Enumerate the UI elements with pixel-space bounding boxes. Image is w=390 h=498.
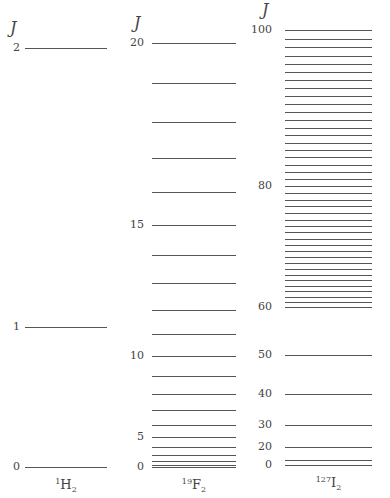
energy-level-line xyxy=(285,96,372,97)
energy-level-line xyxy=(152,467,236,468)
j-tick-label: 20 xyxy=(248,440,272,453)
energy-level-line xyxy=(285,72,372,73)
energy-level-line xyxy=(285,291,372,292)
energy-level-line xyxy=(285,193,372,194)
energy-level-line xyxy=(285,245,372,246)
j-axis-label: J xyxy=(134,13,140,32)
energy-level-line xyxy=(285,226,372,227)
energy-level-line xyxy=(152,192,236,193)
energy-level-line xyxy=(152,225,236,226)
molecule-label: 1H2 xyxy=(16,477,116,494)
energy-level-line xyxy=(285,80,372,81)
j-tick-label: 10 xyxy=(120,349,144,362)
energy-level-line xyxy=(152,465,236,466)
energy-level-line xyxy=(285,263,372,264)
energy-level-line xyxy=(152,455,236,456)
energy-level-line xyxy=(152,425,236,426)
j-tick-label: 5 xyxy=(120,430,144,443)
energy-level-line xyxy=(285,120,372,121)
energy-level-line xyxy=(285,307,372,308)
j-axis-label: J xyxy=(262,0,268,19)
energy-level-line xyxy=(152,334,236,335)
j-tick-label: 1 xyxy=(0,320,20,333)
molecule-label: 19F2 xyxy=(144,477,244,494)
energy-level-line xyxy=(285,447,372,448)
j-tick-label: 50 xyxy=(248,348,272,361)
j-tick-label: 20 xyxy=(120,36,144,49)
energy-level-line xyxy=(285,165,372,166)
j-tick-label: 0 xyxy=(248,458,272,471)
energy-level-line xyxy=(152,310,236,311)
j-tick-label: 60 xyxy=(248,300,272,313)
j-tick-label: 80 xyxy=(248,179,272,192)
energy-level-line xyxy=(285,143,372,144)
energy-level-line xyxy=(285,157,372,158)
energy-level-line xyxy=(152,158,236,159)
energy-level-line xyxy=(25,327,107,328)
energy-level-line xyxy=(152,83,236,84)
energy-level-line xyxy=(285,232,372,233)
energy-level-line xyxy=(285,257,372,258)
energy-level-line xyxy=(285,239,372,240)
energy-level-line xyxy=(152,376,236,377)
energy-level-line xyxy=(285,465,372,466)
energy-level-line xyxy=(285,220,372,221)
energy-level-line xyxy=(285,47,372,48)
energy-level-line xyxy=(152,356,236,357)
energy-level-line xyxy=(285,88,372,89)
energy-level-line xyxy=(285,150,372,151)
energy-level-line xyxy=(285,186,372,187)
energy-level-line xyxy=(152,122,236,123)
energy-level-line xyxy=(285,269,372,270)
energy-level-line xyxy=(285,179,372,180)
energy-level-line xyxy=(285,297,372,298)
j-tick-label: 15 xyxy=(120,218,144,231)
energy-level-line xyxy=(285,30,372,31)
energy-level-line xyxy=(152,410,236,411)
energy-level-line xyxy=(285,128,372,129)
energy-level-line xyxy=(152,394,236,395)
j-tick-label: 2 xyxy=(0,41,20,54)
energy-level-line xyxy=(285,104,372,105)
energy-level-line xyxy=(285,206,372,207)
energy-level-line xyxy=(285,460,372,461)
j-tick-label: 40 xyxy=(248,387,272,400)
energy-level-line xyxy=(285,425,372,426)
energy-level-line xyxy=(285,302,372,303)
energy-level-line xyxy=(285,280,372,281)
energy-level-line xyxy=(152,461,236,462)
energy-level-line xyxy=(152,437,236,438)
j-tick-label: 100 xyxy=(248,23,272,36)
energy-level-line xyxy=(285,355,372,356)
energy-level-line xyxy=(285,200,372,201)
j-axis-label: J xyxy=(10,18,16,37)
energy-level-line xyxy=(285,286,372,287)
energy-level-line xyxy=(285,172,372,173)
energy-level-line xyxy=(152,255,236,256)
energy-level-line xyxy=(285,112,372,113)
j-tick-label: 0 xyxy=(120,460,144,473)
energy-level-line xyxy=(285,275,372,276)
j-tick-label: 30 xyxy=(248,418,272,431)
energy-level-line xyxy=(25,467,107,468)
energy-level-line xyxy=(25,48,107,49)
energy-level-line xyxy=(285,251,372,252)
energy-level-line xyxy=(285,56,372,57)
energy-level-line xyxy=(285,135,372,136)
energy-level-line xyxy=(285,39,372,40)
energy-level-line xyxy=(152,447,236,448)
energy-level-line xyxy=(152,283,236,284)
molecule-label: 127I2 xyxy=(279,475,379,492)
energy-level-line xyxy=(152,43,236,44)
energy-level-line xyxy=(285,213,372,214)
energy-level-line xyxy=(285,64,372,65)
j-tick-label: 0 xyxy=(0,460,20,473)
energy-level-line xyxy=(285,394,372,395)
